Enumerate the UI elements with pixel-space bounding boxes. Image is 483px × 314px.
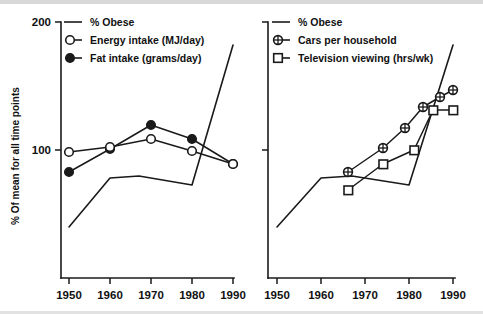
y-axis-title: % Of mean for all time points [10,87,21,225]
filled-circle-icon [66,54,82,63]
crossed-circle-icon [274,36,290,45]
x-tick-label-1990-left: 1990 [220,289,246,301]
series-line-television-viewing [348,110,453,190]
x-tick-label-1970-right: 1970 [352,289,378,301]
x-tick-label-1960-right: 1960 [308,289,334,301]
x-tick-label-1950-left: 1950 [56,289,82,301]
series-markers-television-viewing [344,106,458,195]
legend-label-obese-left: % Obese [90,16,135,28]
chart-svg: 200 100 % Of mean for all time points 19… [0,0,483,314]
legend-left: % Obese Energy intake (MJ/day) Fat intak… [64,16,204,64]
legend-label-television-viewing: Television viewing (hrs/wk) [298,52,433,64]
series-markers-fat-intake [65,121,238,177]
x-tick-label-1990-right: 1990 [440,289,466,301]
panel-right: 1950 1960 1970 1980 1990 [262,16,466,301]
legend-label-obese-right: % Obese [298,16,343,28]
open-square-icon [274,54,290,63]
y-tick-label-100: 100 [32,144,51,156]
legend-label-fat-intake: Fat intake (grams/day) [90,52,201,64]
series-line-cars-per-household [348,90,453,172]
x-tick-label-1980-left: 1980 [179,289,205,301]
legend-label-cars-per-household: Cars per household [298,34,397,46]
legend-label-energy-intake: Energy intake (MJ/day) [90,34,204,46]
legend-right: % Obese Cars per household Television vi… [272,16,433,64]
y-tick-label-200: 200 [32,16,51,28]
x-tick-label-1970-left: 1970 [138,289,164,301]
x-tick-label-1950-right: 1950 [264,289,290,301]
figure-container: 200 100 % Of mean for all time points 19… [0,0,483,314]
x-tick-label-1980-right: 1980 [396,289,422,301]
x-tick-label-1960-left: 1960 [97,289,123,301]
open-circle-icon [66,36,82,45]
series-line-obese-right [277,45,453,227]
panel-left: 200 100 % Of mean for all time points 19… [10,16,246,301]
